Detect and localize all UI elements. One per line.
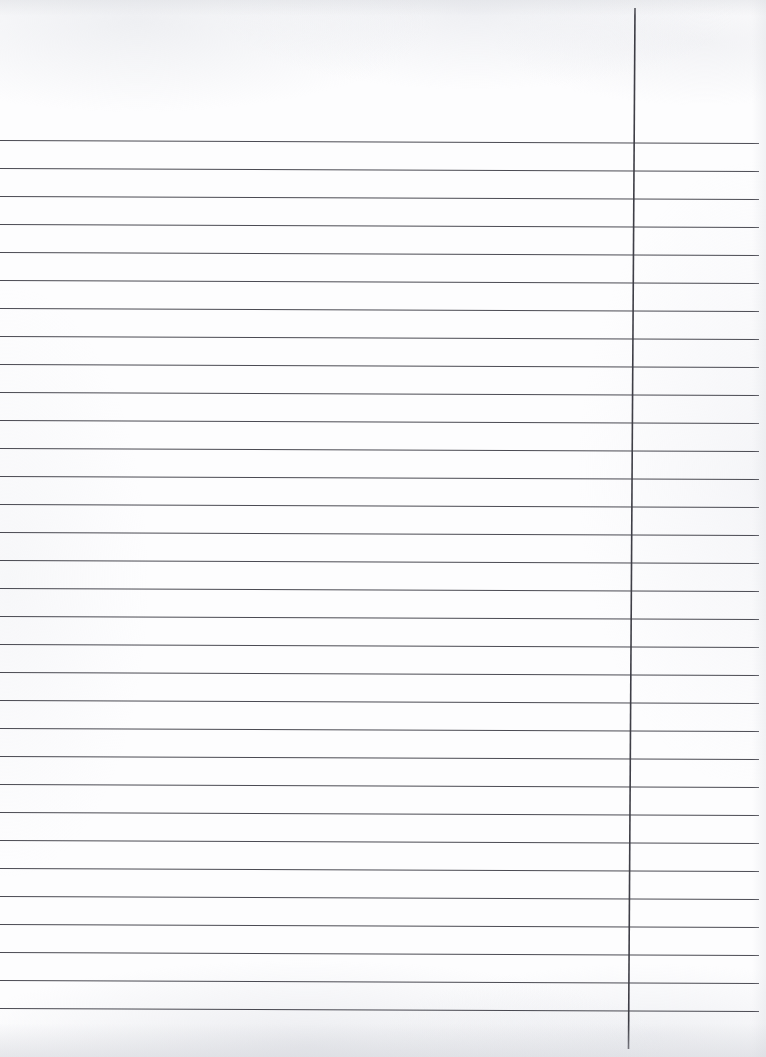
horizontal-rule-line	[0, 897, 759, 900]
horizontal-rule-line	[0, 981, 759, 984]
horizontal-rule-line	[0, 225, 759, 228]
horizontal-rule-line	[0, 813, 759, 816]
horizontal-rule-line	[0, 337, 759, 340]
horizontal-rule-line	[0, 953, 759, 956]
horizontal-rule-line	[0, 197, 759, 200]
horizontal-rule-line	[0, 1009, 759, 1012]
horizontal-rule-line	[0, 281, 759, 284]
vertical-margin-rule	[629, 8, 636, 1049]
horizontal-rule-line	[0, 925, 759, 928]
horizontal-rule-line	[0, 309, 759, 312]
horizontal-rule-line	[0, 533, 759, 536]
horizontal-rule-line	[0, 365, 759, 368]
horizontal-rule-group	[0, 141, 759, 1012]
horizontal-rule-line	[0, 729, 759, 732]
horizontal-rule-line	[0, 757, 759, 760]
horizontal-rule-line	[0, 701, 759, 704]
horizontal-rule-line	[0, 169, 759, 172]
horizontal-rule-line	[0, 785, 759, 788]
horizontal-rule-line	[0, 617, 759, 620]
scanned-page	[0, 0, 766, 1057]
horizontal-rule-line	[0, 561, 759, 564]
ruling-overlay	[0, 0, 766, 1057]
horizontal-rule-line	[0, 869, 759, 872]
horizontal-rule-line	[0, 421, 759, 424]
horizontal-rule-line	[0, 673, 759, 676]
horizontal-rule-line	[0, 393, 759, 396]
horizontal-rule-line	[0, 141, 759, 144]
horizontal-rule-line	[0, 841, 759, 844]
horizontal-rule-line	[0, 253, 759, 256]
horizontal-rule-line	[0, 589, 759, 592]
horizontal-rule-line	[0, 505, 759, 508]
horizontal-rule-line	[0, 477, 759, 480]
horizontal-rule-line	[0, 449, 759, 452]
horizontal-rule-line	[0, 645, 759, 648]
